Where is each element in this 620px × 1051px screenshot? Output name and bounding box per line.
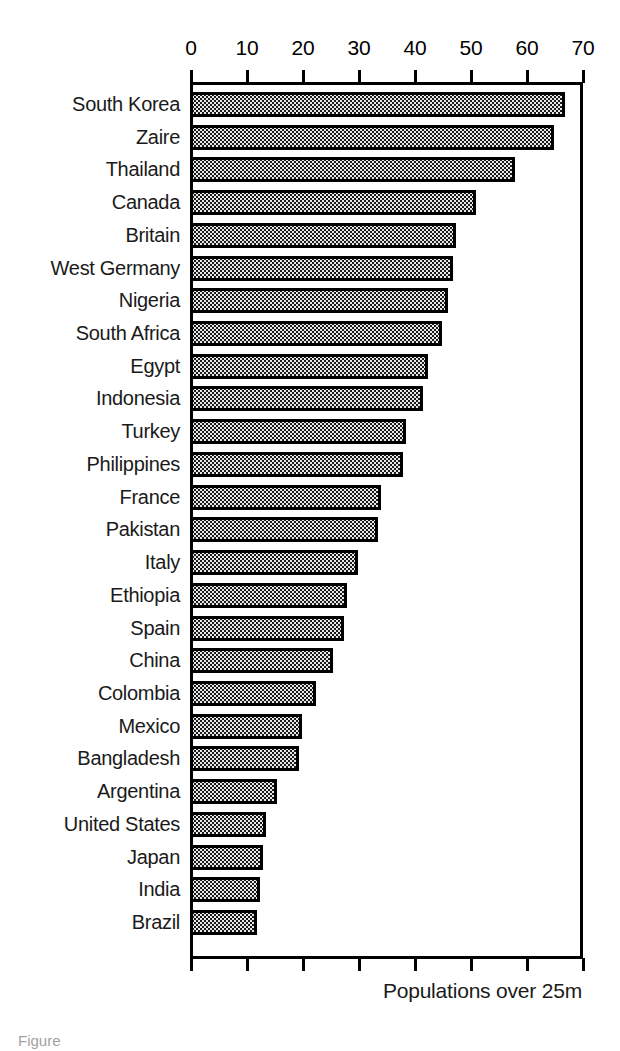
category-label: Colombia — [0, 682, 180, 704]
x-tick-label: 40 — [404, 36, 427, 60]
bar — [190, 354, 428, 379]
bar — [190, 157, 515, 182]
category-label: China — [0, 649, 180, 671]
x-tick-label: 0 — [185, 36, 196, 60]
bar — [190, 746, 299, 771]
category-label: Brazil — [0, 911, 180, 933]
category-label: Indonesia — [0, 387, 180, 409]
x-tick-bottom — [190, 958, 193, 971]
category-label: Bangladesh — [0, 747, 180, 769]
bar — [190, 812, 266, 837]
category-label: Argentina — [0, 780, 180, 802]
category-label: Italy — [0, 551, 180, 573]
category-label: India — [0, 878, 180, 900]
x-tick-bottom — [302, 958, 305, 971]
x-tick-label: 50 — [460, 36, 483, 60]
chart-caption: Populations over 25m — [0, 978, 582, 1004]
x-tick-label: 60 — [516, 36, 539, 60]
x-tick-top — [246, 70, 249, 83]
bar — [190, 877, 260, 902]
bar — [190, 256, 453, 281]
bar — [190, 910, 257, 935]
x-tick-top — [358, 70, 361, 83]
x-tick-bottom — [414, 958, 417, 971]
category-label: Zaire — [0, 126, 180, 148]
category-label: Nigeria — [0, 289, 180, 311]
category-label: Philippines — [0, 453, 180, 475]
x-tick-bottom — [526, 958, 529, 971]
bar — [190, 92, 565, 117]
bar — [190, 190, 476, 215]
x-tick-label: 30 — [348, 36, 371, 60]
bar — [190, 583, 347, 608]
category-label: South Korea — [0, 93, 180, 115]
category-label: Canada — [0, 191, 180, 213]
category-label: Thailand — [0, 158, 180, 180]
x-tick-label: 20 — [292, 36, 315, 60]
category-label: Spain — [0, 617, 180, 639]
bar — [190, 452, 403, 477]
bar-chart: South KoreaZaireThailandCanadaBritainWes… — [0, 0, 620, 1051]
bar — [190, 714, 302, 739]
bar — [190, 517, 378, 542]
x-tick-bottom — [246, 958, 249, 971]
bar — [190, 616, 344, 641]
bar — [190, 485, 381, 510]
category-label: Britain — [0, 224, 180, 246]
category-label: Ethiopia — [0, 584, 180, 606]
x-tick-top — [302, 70, 305, 83]
bar — [190, 386, 423, 411]
category-label: Japan — [0, 846, 180, 868]
figure-note: Figure — [18, 1032, 61, 1050]
category-label-column: South KoreaZaireThailandCanadaBritainWes… — [0, 0, 180, 1051]
category-label: West Germany — [0, 257, 180, 279]
plot-area — [190, 84, 582, 958]
category-label: Egypt — [0, 355, 180, 377]
x-tick-label: 10 — [236, 36, 259, 60]
category-label: Pakistan — [0, 518, 180, 540]
bar — [190, 845, 263, 870]
bar — [190, 288, 448, 313]
bar — [190, 125, 554, 150]
bar — [190, 648, 333, 673]
bar — [190, 779, 277, 804]
x-tick-label: 70 — [572, 36, 595, 60]
x-tick-top — [470, 70, 473, 83]
category-label: South Africa — [0, 322, 180, 344]
x-tick-top — [414, 70, 417, 83]
x-tick-top — [582, 70, 585, 83]
bar — [190, 681, 316, 706]
x-tick-bottom — [470, 958, 473, 971]
bar — [190, 419, 406, 444]
category-label: United States — [0, 813, 180, 835]
x-tick-top — [526, 70, 529, 83]
bar — [190, 550, 358, 575]
category-label: France — [0, 486, 180, 508]
x-tick-bottom — [358, 958, 361, 971]
x-tick-bottom — [582, 958, 585, 971]
category-label: Mexico — [0, 715, 180, 737]
bar — [190, 321, 442, 346]
category-label: Turkey — [0, 420, 180, 442]
bar — [190, 223, 456, 248]
x-tick-top — [190, 70, 193, 83]
